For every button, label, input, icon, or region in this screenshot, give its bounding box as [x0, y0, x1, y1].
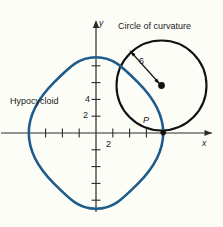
- radius-label: 6: [139, 57, 144, 66]
- y-tick-label-4: 4: [85, 95, 90, 104]
- hypocycloid-curvature-figure: Circle of curvature Hypocycloid 6 P x y …: [0, 0, 223, 227]
- point-p-marker: [160, 130, 166, 136]
- circle-center-dot: [158, 82, 165, 89]
- axes-group: [1, 23, 212, 212]
- y-axis-label: y: [99, 19, 103, 28]
- hypocycloid-label: Hypocycloid: [10, 97, 59, 106]
- figure-canvas: [0, 0, 223, 227]
- radius-arrow: [132, 53, 159, 83]
- x-axis-arrowhead: [205, 130, 213, 136]
- x-tick-label-2: 2: [106, 140, 111, 149]
- point-p-label: P: [143, 116, 149, 125]
- circle-of-curvature-title: Circle of curvature: [118, 22, 191, 31]
- x-axis-label: x: [202, 139, 206, 148]
- y-tick-label-2: 2: [83, 111, 88, 120]
